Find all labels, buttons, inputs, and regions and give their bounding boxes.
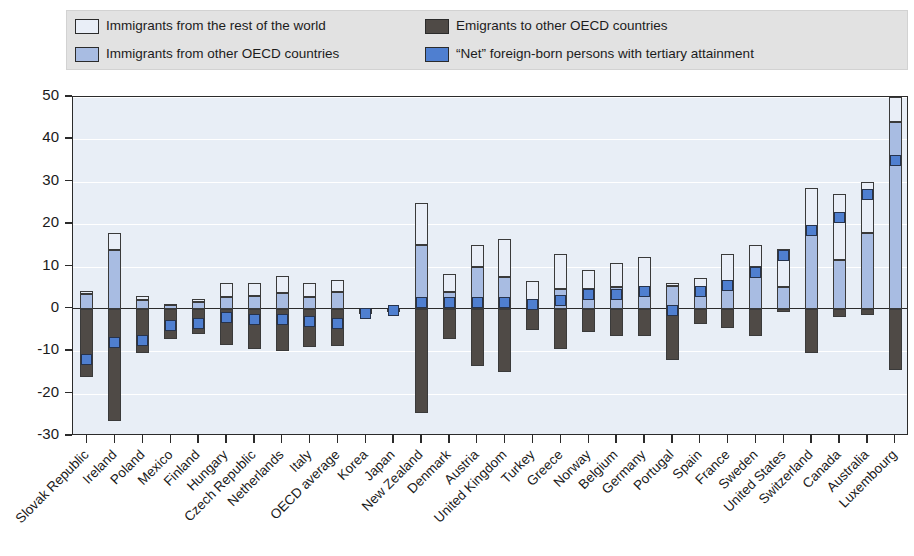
bar-segment-emigrants — [749, 309, 762, 337]
y-tick-mark — [65, 222, 72, 224]
bar-segment-emigrants — [303, 309, 316, 347]
x-tick-label: Slovak Republic — [12, 447, 91, 526]
bar-group[interactable] — [666, 97, 679, 434]
net-marker — [639, 286, 650, 297]
x-tick-mark — [253, 435, 254, 443]
bar-segment-oecd — [777, 287, 790, 309]
bar-group[interactable] — [721, 97, 734, 434]
x-tick-mark — [560, 435, 561, 443]
bar-group[interactable] — [861, 97, 874, 434]
bar-group[interactable] — [471, 97, 484, 434]
bar-segment-rest-of-world — [415, 203, 428, 245]
net-marker — [611, 289, 622, 300]
bar-segment-rest-of-world — [108, 233, 121, 250]
bar-segment-rest-of-world — [471, 245, 484, 266]
net-marker — [890, 155, 901, 166]
x-tick-mark — [337, 435, 338, 443]
bar-segment-emigrants — [721, 309, 734, 328]
bar-segment-emigrants — [136, 309, 149, 353]
net-marker — [249, 314, 260, 325]
y-tick-label: -30 — [0, 426, 59, 442]
bar-group[interactable] — [387, 97, 400, 434]
legend-label-row: Immigrants from the rest of the world — [106, 19, 326, 33]
bar-segment-rest-of-world — [80, 291, 93, 294]
bar-segment-rest-of-world — [192, 299, 205, 302]
bar-segment-emigrants — [694, 309, 707, 324]
bar-group[interactable] — [610, 97, 623, 434]
plot-area — [72, 96, 908, 435]
y-tick-label: 20 — [0, 214, 59, 230]
bar-group[interactable] — [136, 97, 149, 434]
bar-segment-emigrants — [833, 309, 846, 317]
bar-group[interactable] — [303, 97, 316, 434]
bar-segment-rest-of-world — [638, 257, 651, 287]
x-tick-mark — [114, 435, 115, 443]
bar-segment-oecd — [331, 292, 344, 309]
bar-segment-emigrants — [666, 309, 679, 360]
legend-swatch-oecd-icon — [75, 47, 99, 62]
y-tick-mark — [65, 307, 72, 309]
bar-group[interactable] — [805, 97, 818, 434]
bar-group[interactable] — [443, 97, 456, 434]
bar-group[interactable] — [248, 97, 261, 434]
bar-group[interactable] — [554, 97, 567, 434]
bar-segment-rest-of-world — [610, 263, 623, 287]
net-marker — [806, 225, 817, 236]
legend-column-0: Immigrants from the rest of the worldImm… — [75, 11, 425, 71]
net-marker — [583, 289, 594, 300]
y-tick-label: -20 — [0, 384, 59, 400]
bar-group[interactable] — [331, 97, 344, 434]
bar-group[interactable] — [80, 97, 93, 434]
bar-group[interactable] — [889, 97, 902, 434]
bar-segment-emigrants — [861, 309, 874, 315]
bar-segment-rest-of-world — [220, 283, 233, 297]
bar-segment-oecd — [136, 300, 149, 309]
bar-group[interactable] — [415, 97, 428, 434]
x-tick-mark — [504, 435, 505, 443]
bar-segment-emigrants — [582, 309, 595, 332]
bar-segment-oecd — [80, 294, 93, 309]
x-tick-mark — [783, 435, 784, 443]
y-tick-label: 10 — [0, 257, 59, 273]
legend-item-net[interactable]: “Net” foreign-born persons with tertiary… — [425, 41, 905, 67]
bar-group[interactable] — [220, 97, 233, 434]
bar-segment-emigrants — [526, 309, 539, 330]
bar-segment-rest-of-world — [248, 283, 261, 296]
bar-group[interactable] — [749, 97, 762, 434]
net-marker — [527, 299, 538, 310]
net-marker — [388, 305, 399, 316]
y-tick-mark — [65, 95, 72, 97]
net-marker — [332, 318, 343, 329]
x-tick-mark — [671, 435, 672, 443]
x-tick-mark — [197, 435, 198, 443]
legend-item-row[interactable]: Immigrants from the rest of the world — [75, 13, 425, 39]
bar-group[interactable] — [833, 97, 846, 434]
bar-group[interactable] — [108, 97, 121, 434]
bar-group[interactable] — [777, 97, 790, 434]
net-marker — [360, 308, 371, 319]
x-tick-mark — [894, 435, 895, 443]
bar-segment-emigrants — [108, 309, 121, 421]
bar-segment-rest-of-world — [666, 283, 679, 286]
bar-group[interactable] — [359, 97, 372, 434]
bar-group[interactable] — [526, 97, 539, 434]
legend-item-emi[interactable]: Emigrants to other OECD countries — [425, 13, 905, 39]
bar-group[interactable] — [192, 97, 205, 434]
legend-label-net: “Net” foreign-born persons with tertiary… — [456, 47, 754, 61]
bar-group[interactable] — [164, 97, 177, 434]
legend-label-oecd: Immigrants from other OECD countries — [106, 47, 339, 61]
x-tick-mark — [838, 435, 839, 443]
x-tick-mark — [699, 435, 700, 443]
y-tick-mark — [65, 137, 72, 139]
bar-group[interactable] — [582, 97, 595, 434]
net-marker — [750, 267, 761, 278]
bar-group[interactable] — [276, 97, 289, 434]
x-tick-mark — [643, 435, 644, 443]
legend-item-oecd[interactable]: Immigrants from other OECD countries — [75, 41, 425, 67]
bar-group[interactable] — [694, 97, 707, 434]
x-tick-mark — [365, 435, 366, 443]
bar-group[interactable] — [498, 97, 511, 434]
bar-group[interactable] — [638, 97, 651, 434]
x-tick-mark — [476, 435, 477, 443]
bar-segment-rest-of-world — [833, 194, 846, 260]
